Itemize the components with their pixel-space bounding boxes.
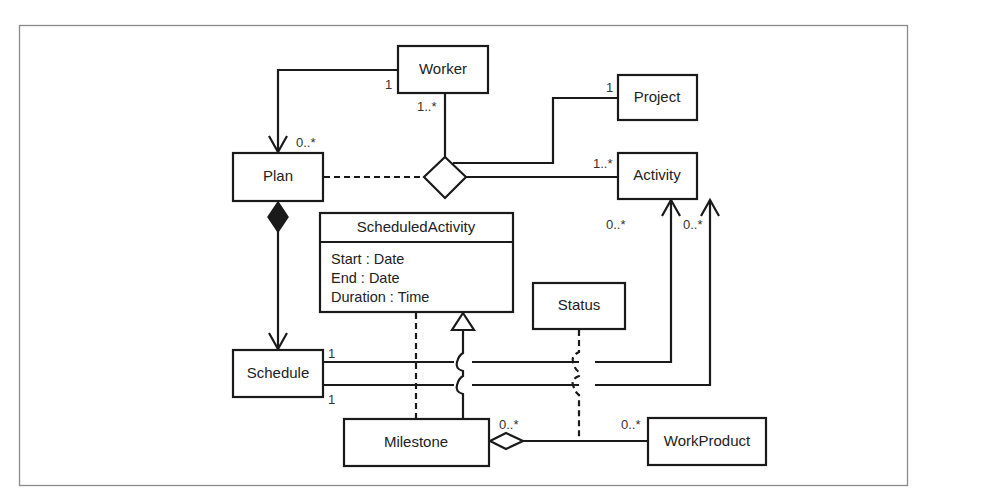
filled-diamond-composition-icon xyxy=(268,202,288,232)
class-name: ScheduledActivity xyxy=(357,218,476,235)
multiplicity-label: 1 xyxy=(328,346,335,361)
class-name: Worker xyxy=(419,60,467,77)
class-workproduct: WorkProduct xyxy=(648,418,766,465)
hollow-diamond-aggregation-icon xyxy=(490,433,523,449)
class-name: Project xyxy=(634,88,682,105)
class-milestone: Milestone xyxy=(344,419,489,466)
multiplicity-label: 0..* xyxy=(683,217,703,232)
project-diamond-association xyxy=(453,98,618,163)
class-name: Milestone xyxy=(384,433,448,450)
class-activity: Activity xyxy=(618,153,697,199)
attribute-duration: Duration : Time xyxy=(331,289,429,305)
class-project: Project xyxy=(618,75,697,120)
class-scheduled-activity: ScheduledActivity Start : Date End : Dat… xyxy=(320,213,513,312)
multiplicity-label: 1..* xyxy=(593,156,613,171)
multiplicity-label: 1 xyxy=(606,80,613,95)
multiplicity-label: 0..* xyxy=(499,417,519,432)
hollow-triangle-generalization-icon xyxy=(452,313,474,330)
class-worker: Worker xyxy=(398,46,488,93)
multiplicity-label: 1..* xyxy=(417,99,437,114)
attribute-start: Start : Date xyxy=(331,251,404,267)
class-name: Status xyxy=(558,296,601,313)
multiplicity-label: 1 xyxy=(328,392,335,407)
multiplicity-label: 0..* xyxy=(606,217,626,232)
class-status: Status xyxy=(533,283,625,329)
class-plan: Plan xyxy=(233,153,323,201)
class-name: WorkProduct xyxy=(664,432,751,449)
multiplicity-label: 0..* xyxy=(296,135,316,150)
uml-class-diagram: Worker Project Plan Activity ScheduledAc… xyxy=(0,0,996,500)
attribute-end: End : Date xyxy=(331,270,400,286)
multiplicity-label: 0..* xyxy=(621,417,641,432)
class-name: Plan xyxy=(263,167,293,184)
class-name: Activity xyxy=(633,166,681,183)
multiplicity-label: 1 xyxy=(385,77,392,92)
milestone-generalization xyxy=(457,330,463,419)
class-schedule: Schedule xyxy=(233,350,323,397)
class-name: Schedule xyxy=(247,364,310,381)
